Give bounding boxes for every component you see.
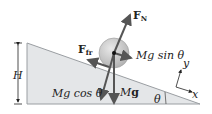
- weight-label: Mg: [120, 87, 139, 98]
- x-axis-arrow: [176, 87, 192, 92]
- incline-diagram: H FN Ffr Mg sin θ Mg cos θ Mg θ x y: [0, 0, 212, 114]
- angle-label: θ: [154, 94, 161, 105]
- x-axis-label: x: [192, 89, 198, 100]
- y-axis-arrow: [176, 70, 181, 87]
- mg-cos-label: Mg cos θ: [52, 88, 102, 99]
- y-axis-label: y: [183, 58, 189, 69]
- friction-label: Ffr: [78, 44, 93, 56]
- mg-sin-label: Mg sin θ: [136, 50, 184, 61]
- height-label: H: [13, 70, 23, 81]
- normal-force-label: FN: [133, 10, 147, 22]
